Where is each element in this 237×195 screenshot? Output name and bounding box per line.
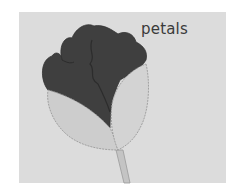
stem xyxy=(116,150,130,183)
petals-label: petals xyxy=(141,20,188,38)
flower-bud-illustration xyxy=(0,0,237,195)
